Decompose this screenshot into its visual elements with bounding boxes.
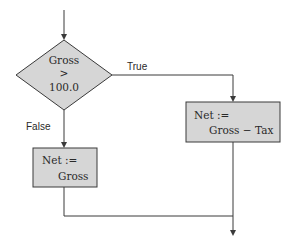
process-node-net-gross: Net := Gross	[33, 148, 97, 187]
decision-line-3: 100.0	[49, 81, 79, 93]
flowchart: Gross > 100.0 True False Net := Gross − …	[0, 0, 299, 242]
process-true-line-1: Net :=	[194, 109, 229, 121]
false-branch-connector: False	[26, 110, 67, 148]
true-label: True	[127, 61, 148, 72]
decision-node: Gross > 100.0	[16, 40, 112, 110]
decision-line-2: >	[60, 67, 69, 79]
process-true-line-2: Gross − Tax	[209, 124, 273, 136]
false-label: False	[26, 121, 51, 132]
process-false-line-2: Gross	[58, 170, 89, 182]
process-node-net-gross-minus-tax: Net := Gross − Tax	[186, 102, 280, 142]
entry-arrow	[61, 10, 67, 40]
process-false-line-1: Net :=	[42, 154, 77, 166]
decision-line-1: Gross	[49, 54, 80, 66]
true-branch-connector: True	[112, 61, 236, 102]
